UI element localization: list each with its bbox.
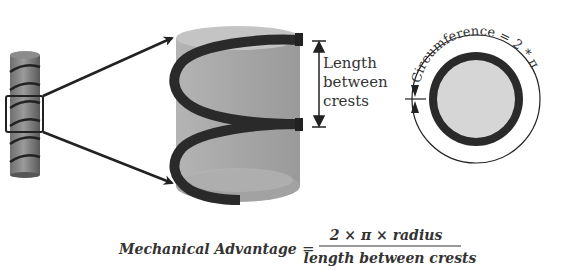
formula-denominator: length between crests [304, 250, 477, 266]
formula-lhs: Mechanical Advantage [118, 241, 297, 257]
mechanical-advantage-formula: Mechanical Advantage = 2 × π × radius le… [0, 225, 561, 270]
crest-length-label: Length between crests [323, 54, 393, 110]
small-screw [6, 51, 43, 178]
large-screw-cylinder [174, 26, 303, 202]
formula-numerator: 2 × π × radius [329, 227, 443, 243]
shaft-disc [437, 60, 515, 138]
zoom-arrows [43, 38, 172, 183]
